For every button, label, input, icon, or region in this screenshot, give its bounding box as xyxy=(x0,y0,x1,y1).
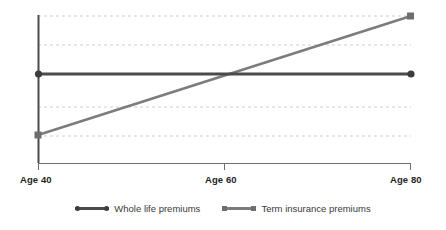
series-whole-life-marker-start xyxy=(35,70,42,77)
chart-canvas xyxy=(0,0,446,230)
legend-marker-square-left xyxy=(222,206,227,211)
legend-swatch-whole-life xyxy=(75,204,109,213)
x-axis-label-age-60: Age 60 xyxy=(205,174,237,185)
series-whole-life-marker-end xyxy=(407,70,414,77)
legend-item-whole-life-premiums[interactable]: Whole life premiums xyxy=(75,203,200,214)
legend-label-whole-life-premiums: Whole life premiums xyxy=(114,203,200,214)
legend-swatch-term-insurance xyxy=(222,204,256,213)
line-chart: Age 40 Age 60 Age 80 Whole life premiums… xyxy=(0,0,446,230)
legend-marker-circle-left xyxy=(75,206,80,211)
x-axis-ticks xyxy=(39,163,411,170)
series-term-insurance-premiums xyxy=(35,13,415,139)
x-axis-label-age-80: Age 80 xyxy=(390,174,422,185)
x-axis-label-age-40: Age 40 xyxy=(20,174,52,185)
legend-item-term-insurance-premiums[interactable]: Term insurance premiums xyxy=(222,203,370,214)
series-term-marker-start xyxy=(35,132,42,139)
series-term-marker-end xyxy=(407,13,414,20)
legend-marker-circle-right xyxy=(104,206,109,211)
legend-marker-square-right xyxy=(251,206,256,211)
legend-label-term-insurance-premiums: Term insurance premiums xyxy=(261,203,370,214)
series-term-line xyxy=(38,16,411,135)
chart-legend: Whole life premiums Term insurance premi… xyxy=(0,203,446,214)
